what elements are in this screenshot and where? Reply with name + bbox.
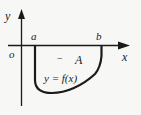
integral-area-diagram: y a b o x − A y = f(x) bbox=[0, 0, 141, 115]
diagram-canvas bbox=[0, 0, 141, 115]
point-a-label: a bbox=[31, 31, 37, 42]
y-axis-arrow-icon bbox=[18, 9, 25, 19]
function-label: y = f(x) bbox=[44, 73, 77, 84]
x-axis-arrow-icon bbox=[118, 42, 130, 50]
point-b-label: b bbox=[96, 31, 102, 42]
x-axis-label: x bbox=[122, 51, 127, 63]
y-axis-label: y bbox=[5, 10, 10, 22]
area-label: A bbox=[75, 54, 82, 66]
function-curve bbox=[35, 46, 102, 94]
negative-sign-label: − bbox=[57, 54, 63, 64]
origin-label: o bbox=[9, 49, 15, 60]
